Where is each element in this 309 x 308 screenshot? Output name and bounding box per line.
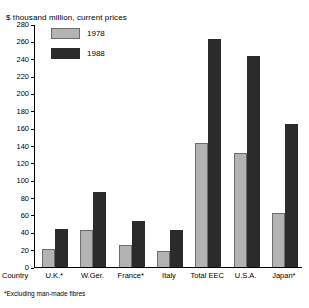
y-tick-label: 160: [16, 124, 29, 133]
bar-1978-usa: [234, 153, 247, 267]
chart-footnote: *Excluding man-made fibres: [4, 290, 85, 298]
bar-1988-italy: [170, 230, 183, 267]
bar-1988-japan: [285, 124, 298, 267]
x-tick-label: Japan*: [254, 271, 309, 281]
bar-1988-france: [132, 221, 145, 267]
legend-label: 1978: [87, 29, 105, 39]
bar-1978-totaleec: [195, 143, 208, 267]
bar-group: [42, 25, 68, 267]
bar-1988-uk: [55, 229, 68, 267]
y-tick-label: 200: [16, 89, 29, 98]
bar-group: [80, 25, 106, 267]
y-tick-label: 120: [16, 159, 29, 168]
y-tick-label: 240: [16, 55, 29, 64]
plot-area: [34, 25, 302, 268]
bar-1978-uk: [42, 249, 55, 267]
y-tick-label: 220: [16, 72, 29, 81]
bar-group: [195, 25, 221, 267]
y-tick-label: 60: [21, 211, 29, 220]
y-tick-label: 180: [16, 107, 29, 116]
y-tick-label: 260: [16, 37, 29, 46]
bar-1978-japan: [272, 213, 285, 267]
legend-swatch: [51, 48, 80, 59]
bar-chart: $ thousand million, current prices 02040…: [0, 0, 309, 308]
bar-1978-wger: [80, 230, 93, 267]
bar-1978-france: [119, 245, 132, 267]
y-tick-label: 20: [21, 246, 29, 255]
legend-swatch: [51, 28, 80, 39]
y-tick-label: 80: [21, 194, 29, 203]
bar-1988-wger: [93, 192, 106, 267]
bar-1988-usa: [247, 56, 260, 267]
bar-group: [157, 25, 183, 267]
bar-group: [234, 25, 260, 267]
legend-label: 1988: [87, 49, 105, 59]
bar-1988-totaleec: [208, 39, 221, 267]
y-tick-label: 140: [16, 142, 29, 151]
y-tick-label: 100: [16, 176, 29, 185]
bar-group: [272, 25, 298, 267]
bar-1978-italy: [157, 251, 170, 267]
y-tick-label: 40: [21, 228, 29, 237]
bar-group: [119, 25, 145, 267]
bars-layer: [35, 25, 302, 267]
y-tick-label: 280: [16, 20, 29, 29]
